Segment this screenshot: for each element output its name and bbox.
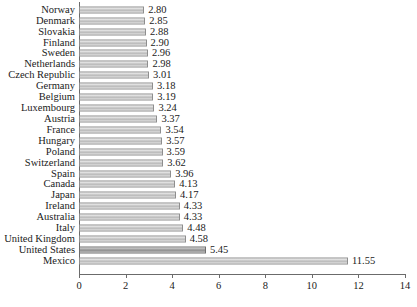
chart-row: Belgium3.19: [79, 91, 405, 103]
chart-row: Italy4.48: [79, 222, 405, 234]
chart-row: Spain3.96: [79, 168, 405, 180]
bar: [79, 159, 163, 166]
x-axis-tick-label: 8: [263, 281, 268, 292]
x-axis-tick-label: 2: [123, 281, 128, 292]
plot-area: Norway2.80Denmark2.85Slovakia2.88Finland…: [79, 4, 405, 266]
chart-row: United Kingdom4.58: [79, 233, 405, 245]
x-axis-tick: [358, 274, 359, 278]
x-axis-tick: [79, 274, 80, 278]
chart-row: Japan4.17: [79, 190, 405, 202]
bar: [79, 181, 175, 188]
value-axis-line: [79, 274, 406, 275]
bar: [79, 115, 157, 122]
chart-row: Netherlands2.98: [79, 59, 405, 71]
x-axis-tick: [405, 274, 406, 278]
category-label: Belgium: [39, 92, 75, 103]
bar-value-label: 3.62: [163, 157, 185, 168]
bar: [79, 61, 148, 68]
bar-chart: Norway2.80Denmark2.85Slovakia2.88Finland…: [0, 0, 417, 307]
category-label: Germany: [36, 81, 75, 92]
chart-row: Germany3.18: [79, 80, 405, 92]
chart-row: Mexico11.55: [79, 255, 405, 267]
chart-row: Norway2.80: [79, 4, 405, 16]
category-label: Sweden: [42, 48, 75, 59]
bar: [79, 39, 147, 46]
bar: [79, 225, 183, 232]
bar-value-label: 4.58: [186, 234, 208, 245]
bar-value-label: 5.45: [206, 245, 228, 256]
category-label: Mexico: [43, 256, 75, 267]
bar: [79, 236, 186, 243]
bar: [79, 203, 180, 210]
bar-value-label: 3.37: [157, 114, 179, 125]
bar-value-label: 3.59: [163, 146, 185, 157]
chart-row: Ireland4.33: [79, 201, 405, 213]
category-label: Slovakia: [38, 26, 75, 37]
bar-value-label: 2.88: [146, 26, 168, 37]
chart-row: Denmark2.85: [79, 15, 405, 27]
bar: [79, 214, 180, 221]
bar-value-label: 4.13: [175, 179, 197, 190]
x-axis-tick-label: 4: [170, 281, 175, 292]
bar: [79, 257, 348, 264]
x-axis-tick-label: 12: [353, 281, 364, 292]
category-label: Austria: [44, 114, 75, 125]
chart-row: Finland2.90: [79, 37, 405, 49]
bar: [79, 28, 146, 35]
bar-value-label: 3.18: [153, 81, 175, 92]
bar-value-label: 2.96: [148, 48, 170, 59]
bar: [79, 94, 153, 101]
chart-row: Austria3.37: [79, 113, 405, 125]
bar: [79, 6, 144, 13]
chart-row: Sweden2.96: [79, 48, 405, 60]
chart-row: France3.54: [79, 124, 405, 136]
bar-value-label: 2.85: [145, 15, 167, 26]
x-axis-tick-label: 14: [400, 281, 411, 292]
chart-row: Poland3.59: [79, 146, 405, 158]
bar-value-label: 3.54: [161, 125, 183, 136]
x-axis-tick-label: 10: [307, 281, 318, 292]
chart-row: Czech Republic3.01: [79, 70, 405, 82]
bar: [79, 126, 161, 133]
bar: [79, 50, 148, 57]
chart-row: Hungary3.57: [79, 135, 405, 147]
bar-value-label: 4.33: [180, 212, 202, 223]
chart-row: Luxembourg3.24: [79, 102, 405, 114]
bar: [79, 17, 145, 24]
x-axis-tick: [265, 274, 266, 278]
category-label: Netherlands: [24, 59, 75, 70]
bar: [79, 148, 163, 155]
bar: [79, 105, 154, 112]
bar-value-label: 3.19: [153, 92, 175, 103]
bar: [79, 192, 176, 199]
x-axis-tick-label: 0: [76, 281, 81, 292]
category-label: Poland: [46, 146, 75, 157]
x-axis-tick: [172, 274, 173, 278]
category-label: Canada: [44, 179, 76, 190]
bar: [79, 72, 149, 79]
bar-value-label: 4.17: [176, 190, 198, 201]
bar: [79, 137, 162, 144]
category-label: France: [46, 125, 75, 136]
x-axis-tick: [312, 274, 313, 278]
category-label: United States: [19, 245, 75, 256]
category-label: Denmark: [36, 15, 75, 26]
category-label: Italy: [56, 223, 75, 234]
category-label: Switzerland: [25, 157, 75, 168]
bar: [79, 246, 206, 253]
bar-value-label: 11.55: [348, 256, 375, 267]
chart-row: Canada4.13: [79, 179, 405, 191]
chart-row: Slovakia2.88: [79, 26, 405, 38]
chart-row: Australia4.33: [79, 211, 405, 223]
bar: [79, 170, 171, 177]
bar-value-label: 2.98: [148, 59, 170, 70]
x-axis-tick: [126, 274, 127, 278]
category-label: Japan: [51, 190, 75, 201]
bar-value-label: 4.48: [183, 223, 205, 234]
chart-row: Switzerland3.62: [79, 157, 405, 169]
bar: [79, 83, 153, 90]
x-axis-tick-label: 6: [216, 281, 221, 292]
x-axis-tick: [219, 274, 220, 278]
category-label: Australia: [37, 212, 76, 223]
